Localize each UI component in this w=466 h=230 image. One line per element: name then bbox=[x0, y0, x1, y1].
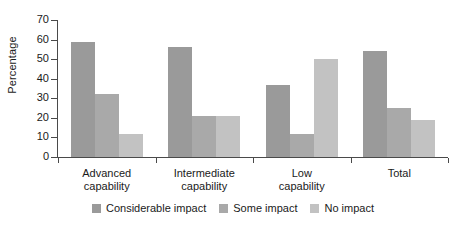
x-axis-category-label: Total bbox=[351, 167, 449, 180]
y-tick-label: 30 bbox=[0, 91, 49, 103]
y-tick-label: 0 bbox=[0, 150, 49, 162]
bar bbox=[266, 85, 290, 157]
x-tick-mark bbox=[253, 158, 254, 163]
x-tick-mark bbox=[156, 158, 157, 163]
x-axis-category-label: Lowcapability bbox=[253, 167, 351, 193]
legend-label: Considerable impact bbox=[106, 202, 206, 214]
x-axis-category-label: Intermediatecapability bbox=[156, 167, 254, 193]
bar bbox=[314, 59, 338, 157]
x-axis-category-label-line: capability bbox=[58, 180, 156, 193]
x-axis-category-label-line: capability bbox=[156, 180, 254, 193]
y-tick-mark bbox=[51, 59, 57, 60]
y-tick-label: 10 bbox=[0, 130, 49, 142]
bar bbox=[168, 47, 192, 157]
legend-label: No impact bbox=[324, 202, 374, 214]
bar bbox=[119, 134, 143, 157]
legend-label: Some impact bbox=[233, 202, 297, 214]
x-axis-category-label-line: Advanced bbox=[58, 167, 156, 180]
y-tick-label: 40 bbox=[0, 72, 49, 84]
bar bbox=[216, 116, 240, 157]
bar bbox=[387, 108, 411, 157]
bar bbox=[411, 120, 435, 157]
chart-legend: Considerable impactSome impactNo impact bbox=[0, 202, 466, 214]
bar-chart: Percentage 010203040506070 Advancedcapab… bbox=[0, 0, 466, 230]
x-tick-mark bbox=[448, 158, 449, 163]
x-axis-category-label-line: capability bbox=[253, 180, 351, 193]
y-tick-mark bbox=[51, 118, 57, 119]
bar bbox=[192, 116, 216, 157]
y-tick-label: 50 bbox=[0, 52, 49, 64]
x-axis-category-label: Advancedcapability bbox=[58, 167, 156, 193]
y-tick-mark bbox=[51, 79, 57, 80]
y-tick-mark bbox=[51, 40, 57, 41]
x-tick-mark bbox=[351, 158, 352, 163]
plot-area bbox=[58, 20, 448, 157]
y-tick-label: 60 bbox=[0, 33, 49, 45]
bar bbox=[363, 51, 387, 157]
x-axis-category-label-line: Low bbox=[253, 167, 351, 180]
legend-swatch-icon bbox=[92, 204, 101, 213]
bar bbox=[71, 42, 95, 157]
legend-item[interactable]: No impact bbox=[310, 202, 374, 214]
y-tick-mark bbox=[51, 20, 57, 21]
x-axis-category-label-line: Total bbox=[351, 167, 449, 180]
y-tick-mark bbox=[51, 137, 57, 138]
bar bbox=[290, 134, 314, 157]
y-tick-label: 70 bbox=[0, 13, 49, 25]
legend-item[interactable]: Some impact bbox=[219, 202, 297, 214]
x-tick-mark bbox=[58, 158, 59, 163]
legend-swatch-icon bbox=[219, 204, 228, 213]
legend-item[interactable]: Considerable impact bbox=[92, 202, 206, 214]
legend-swatch-icon bbox=[310, 204, 319, 213]
y-tick-label: 20 bbox=[0, 111, 49, 123]
bar bbox=[95, 94, 119, 157]
y-tick-mark bbox=[51, 157, 57, 158]
y-tick-mark bbox=[51, 98, 57, 99]
x-axis-category-label-line: Intermediate bbox=[156, 167, 254, 180]
